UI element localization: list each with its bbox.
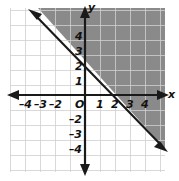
y-tick-label-4: 4 (75, 31, 82, 42)
y-tick-label-1: 1 (75, 76, 82, 87)
x-tick-label-1: 1 (96, 99, 103, 110)
y-tick-label-3: 3 (75, 46, 82, 57)
coordinate-graph-figure: x y O –4 –3 –2 1 2 3 4 4 3 2 1 –2 –3 –4 (0, 0, 179, 181)
y-axis-label: y (88, 2, 95, 13)
origin-label: O (75, 99, 84, 110)
x-tick-label-3: 3 (126, 99, 133, 110)
y-tick-label--2: –2 (69, 114, 82, 125)
plot-canvas (0, 0, 179, 181)
x-tick-label--2: –2 (49, 99, 62, 110)
x-tick-label-2: 2 (111, 99, 118, 110)
y-tick-label--4: –4 (69, 144, 82, 155)
x-tick-label--3: –3 (34, 99, 47, 110)
x-tick-label-4: 4 (141, 99, 148, 110)
y-tick-label-2: 2 (75, 61, 82, 72)
x-axis-label: x (168, 89, 175, 100)
x-tick-label--4: –4 (19, 99, 32, 110)
y-tick-label--3: –3 (69, 129, 82, 140)
